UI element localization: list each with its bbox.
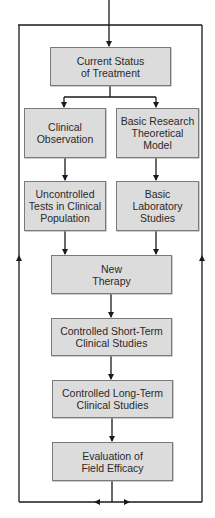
arrow-up-left-icon — [16, 255, 22, 261]
node-new-therapy: New Therapy — [51, 255, 172, 294]
arrow-right-icon — [124, 499, 130, 505]
node-controlled-short-term: Controlled Short-Term Clinical Studies — [51, 318, 172, 356]
node-current-status: Current Status of Treatment — [50, 47, 171, 86]
node-controlled-long-term: Controlled Long-Term Clinical Studies — [52, 380, 173, 418]
node-evaluation-field-efficacy: Evaluation of Field Efficacy — [52, 442, 173, 481]
arrow-left-icon — [94, 499, 100, 505]
arrow-up-right-icon — [199, 255, 205, 261]
node-basic-laboratory: Basic Laboratory Studies — [116, 181, 199, 231]
node-clinical-observation: Clinical Observation — [24, 108, 106, 158]
node-basic-research: Basic Research Theoretical Model — [116, 108, 199, 158]
node-uncontrolled-tests: Uncontrolled Tests in Clinical Populatio… — [24, 181, 106, 231]
